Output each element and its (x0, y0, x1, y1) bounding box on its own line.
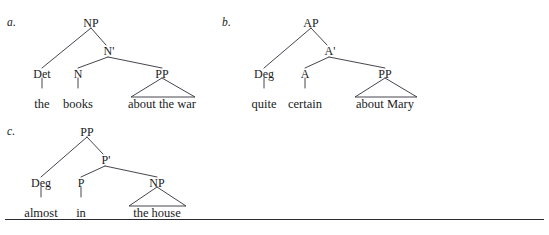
tree-a-node-complement: PP (155, 68, 168, 80)
tree-c-branches (0, 113, 235, 218)
tree-c-terminal-specifier: almost (24, 207, 57, 220)
tree-a-node-specifier: Det (33, 68, 50, 80)
tree-a-node-root: NP (83, 17, 98, 29)
tree-b-terminal-complement: about Mary (356, 98, 414, 111)
tree-a-terminal-head: books (63, 98, 93, 111)
tree-a-terminal-specifier: the (34, 98, 49, 111)
tree-c-node-root: PP (80, 126, 93, 138)
tree-c-terminal-complement: the house (133, 207, 181, 220)
tree-c-node-specifier: Deg (31, 177, 51, 189)
tree-b-terminal-head: certain (288, 98, 322, 111)
tree-c-node-complement: NP (149, 177, 164, 189)
figure-bottom-rule (5, 219, 544, 220)
tree-a-node-bar: N' (104, 45, 115, 57)
tree-a: a. NP N' Det N PP the books about the wa… (0, 0, 235, 115)
tree-c: c. PP P' Deg P NP almost in the house (0, 113, 235, 218)
tree-b-node-head: A (301, 68, 310, 80)
tree-b-node-specifier: Deg (254, 68, 274, 80)
tree-c-terminal-head: in (76, 207, 86, 220)
tree-c-node-bar: P' (102, 154, 111, 166)
tree-a-node-head: N (74, 68, 83, 80)
tree-c-node-head: P (78, 177, 85, 189)
tree-b-node-bar: A' (325, 45, 336, 57)
tree-b-node-complement: PP (378, 68, 391, 80)
tree-a-terminal-complement: about the war (128, 98, 196, 111)
tree-b-terminal-specifier: quite (252, 98, 277, 111)
syntax-tree-figure: a. NP N' Det N PP the books about the wa… (0, 0, 549, 235)
tree-b-node-root: AP (303, 17, 318, 29)
tree-b: b. AP A' Deg A PP quite certain about Ma… (215, 0, 455, 115)
